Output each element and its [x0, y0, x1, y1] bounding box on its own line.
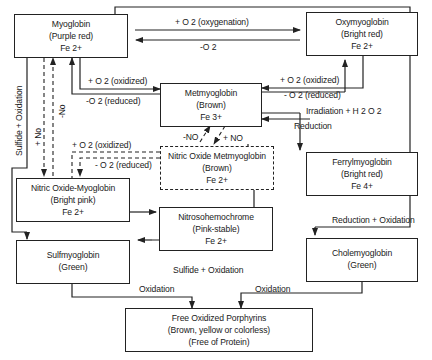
node-nitric-oxide-metmyoglobin: Nitric Oxide Metmyoglobin (Brown) Fe 2+ [160, 146, 274, 190]
node-iron: Fe 2+ [161, 174, 273, 186]
node-nitric-oxide-myoglobin: Nitric Oxide-Myoglobin (Bright pink) Fe … [16, 178, 130, 222]
node-color: (Bright pink) [17, 194, 129, 206]
node-name: Myoglobin [15, 18, 127, 30]
node-cholemyoglobin: Cholemyoglobin (Green) [306, 238, 418, 282]
node-color: (Brown) [161, 99, 261, 111]
label-minus-no-vertical: -No [57, 104, 67, 118]
node-color: (Green) [307, 259, 417, 271]
node-nitrosohemochrome: Nitrosohemochrome (Pink-stable) Fe 2+ [159, 207, 273, 251]
node-note: (Free of Protein) [126, 336, 312, 348]
node-iron: Fe 4+ [307, 180, 417, 192]
node-name: Free Oxidized Porphyrins [126, 312, 312, 324]
node-name: Nitric Oxide Metmyoglobin [161, 150, 273, 162]
node-metmyoglobin: Metmyoglobin (Brown) Fe 3+ [160, 83, 262, 127]
node-free-oxidized-porphyrins: Free Oxidized Porphyrins (Brown, yellow … [125, 308, 313, 352]
label-plus-no: + NO [223, 133, 243, 143]
label-sulfide-oxidation-left: Sulfide + Oxidation [14, 86, 24, 156]
label-oxidation-left: Oxidation [139, 284, 174, 294]
label-reduction-oxidation: Reduction + Oxidation [332, 215, 415, 225]
node-name: Oxymyoglobin [307, 16, 417, 28]
node-sulfmyoglobin: Sulfmyoglobin (Green) [16, 240, 130, 284]
label-met-to-oxy-oxidized: + O 2 (oxidized) [280, 75, 339, 85]
label-myo-to-met-oxidized: + O 2 (oxidized) [88, 76, 147, 86]
node-name: Nitrosohemochrome [160, 211, 272, 223]
node-name: Sulfmyoglobin [17, 249, 129, 261]
node-iron: Fe 2+ [307, 40, 417, 52]
label-deoxygenation: -O 2 [200, 42, 216, 52]
label-plus-no-vertical: + No [33, 128, 43, 146]
node-color: (Bright red) [307, 28, 417, 40]
label-minus-no: -NO [183, 132, 198, 142]
label-sulfide-oxidation-bottom: Sulfide + Oxidation [173, 265, 243, 275]
node-color: (Purple red) [15, 30, 127, 42]
node-oxymyoglobin: Oxymyoglobin (Bright red) Fe 2+ [306, 12, 418, 56]
label-irradiation: Irradiation + H 2 O 2 [306, 106, 382, 116]
label-nomyo-reduced: - O 2 (reduced) [95, 160, 152, 170]
node-name: Ferrylmyoglobin [307, 156, 417, 168]
label-met-to-myo-reduced: -O 2 (reduced) [86, 96, 140, 106]
node-color: (Brown) [161, 162, 273, 174]
label-oxygenation: + O 2 (oxygenation) [175, 17, 249, 27]
node-iron: Fe 3+ [161, 111, 261, 123]
node-iron: Fe 2+ [160, 235, 272, 247]
node-ferrylmyoglobin: Ferrylmyoglobin (Bright red) Fe 4+ [306, 152, 418, 196]
node-name: Cholemyoglobin [307, 247, 417, 259]
node-color: (Brown, yellow or colorless) [126, 324, 312, 336]
node-name: Metmyoglobin [161, 87, 261, 99]
node-color: (Green) [17, 261, 129, 273]
label-oxy-to-met-reduced: - O 2 (reduced) [284, 90, 341, 100]
label-oxidation-right: Oxidation [255, 284, 290, 294]
label-nomyo-oxidized: + O 2 (oxidized) [72, 140, 131, 150]
node-color: (Pink-stable) [160, 223, 272, 235]
node-myoglobin: Myoglobin (Purple red) Fe 2+ [14, 14, 128, 58]
node-iron: Fe 2+ [15, 42, 127, 54]
node-color: (Bright red) [307, 168, 417, 180]
label-reduction: Reduction [294, 121, 332, 131]
node-iron: Fe 2+ [17, 206, 129, 218]
node-name: Nitric Oxide-Myoglobin [17, 182, 129, 194]
